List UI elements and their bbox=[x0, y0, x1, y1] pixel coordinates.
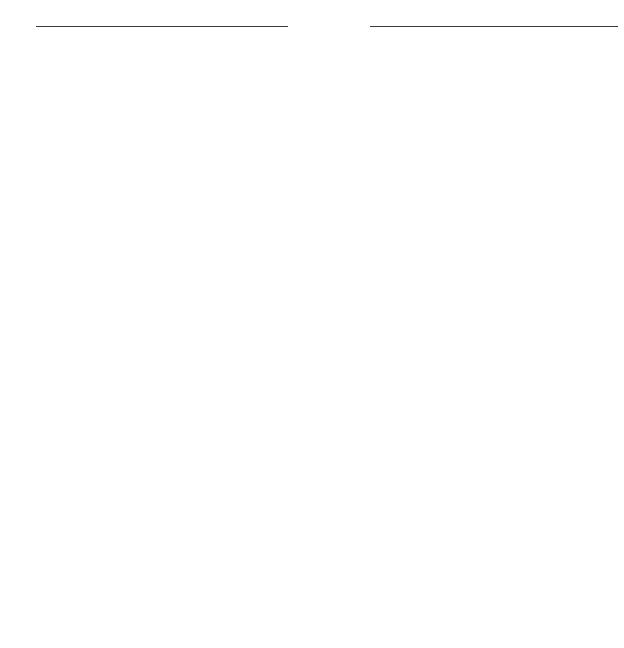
chart-bottom bbox=[0, 344, 624, 640]
chart-top bbox=[0, 38, 624, 338]
header-rule-right bbox=[370, 26, 618, 27]
page-header bbox=[0, 0, 624, 36]
chart-top-canvas bbox=[0, 38, 624, 338]
figure-caption bbox=[66, 641, 606, 648]
header-rule-left bbox=[36, 26, 288, 27]
chart-bottom-canvas bbox=[0, 344, 624, 640]
